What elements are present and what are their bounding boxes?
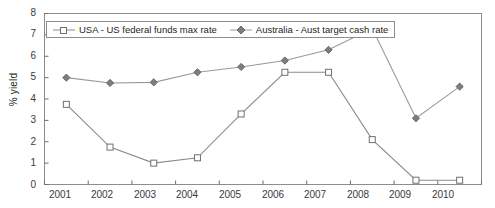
- data-point: [457, 177, 463, 183]
- data-point: [63, 101, 69, 107]
- plot-frame: [45, 14, 482, 185]
- data-point: [151, 160, 157, 166]
- data-point: [282, 69, 288, 75]
- data-point: [238, 111, 244, 117]
- legend-label-australia: Australia - Aust target cash rate: [256, 25, 389, 35]
- filled-diamond-marker-icon: [230, 25, 252, 35]
- data-point: [326, 69, 332, 75]
- legend-item-australia: Australia - Aust target cash rate: [230, 25, 389, 35]
- data-point: [194, 155, 200, 161]
- open-square-marker-icon: [53, 25, 75, 35]
- data-point: [369, 137, 375, 143]
- data-point: [413, 177, 419, 183]
- line-chart: % yield 8 7 6 5 4 3 2 1 0 2001 2002 2003…: [0, 0, 495, 208]
- legend: USA - US federal funds max rate Australi…: [46, 21, 395, 38]
- data-point: [107, 144, 113, 150]
- legend-label-usa: USA - US federal funds max rate: [79, 25, 217, 35]
- legend-item-usa: USA - US federal funds max rate: [53, 25, 217, 35]
